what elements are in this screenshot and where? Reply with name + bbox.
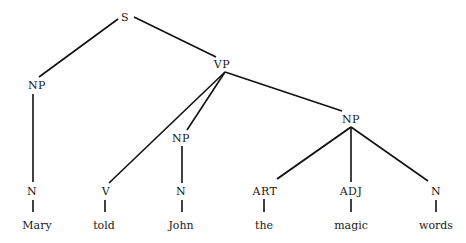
node-n-mary: N bbox=[27, 185, 37, 198]
word-magic: magic bbox=[334, 219, 368, 232]
word-told: told bbox=[93, 219, 115, 232]
node-np-indirect-object: NP bbox=[172, 132, 190, 145]
node-np-direct-object: NP bbox=[342, 113, 360, 126]
node-art: ART bbox=[253, 185, 278, 198]
node-v: V bbox=[102, 185, 110, 198]
node-n-words: N bbox=[431, 185, 441, 198]
word-words: words bbox=[419, 219, 453, 232]
tree-edges bbox=[0, 0, 466, 243]
word-the: the bbox=[255, 219, 273, 232]
node-np-subject: NP bbox=[28, 79, 46, 92]
node-n-john: N bbox=[176, 185, 186, 198]
word-john: John bbox=[168, 219, 193, 232]
syntax-tree-diagram: S NP VP N V NP N NP ART ADJ N Mary told … bbox=[0, 0, 466, 243]
node-vp: VP bbox=[214, 58, 230, 71]
node-adj: ADJ bbox=[340, 185, 363, 198]
word-mary: Mary bbox=[22, 219, 51, 232]
node-s: S bbox=[121, 11, 129, 24]
